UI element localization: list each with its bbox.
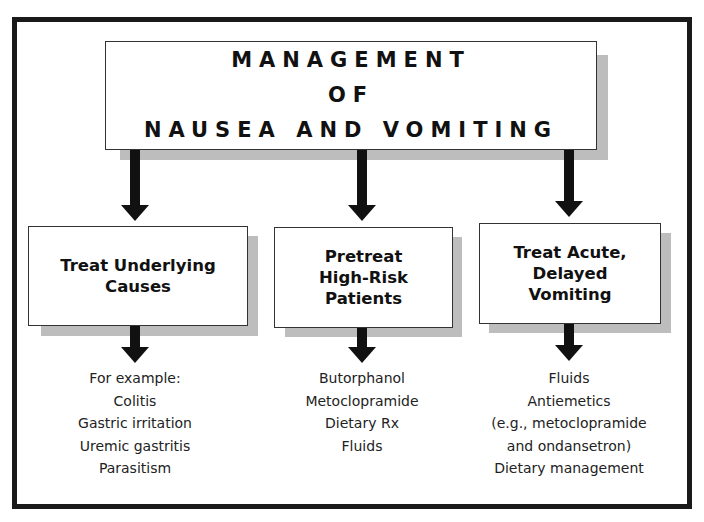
branch-box-treat-acute-delayed-vomiting: Treat Acute, Delayed Vomiting	[479, 223, 661, 324]
arrow-down-icon	[348, 347, 376, 363]
branch-2-heading-line-3: Patients	[325, 288, 402, 309]
title-line-3: NAUSEA AND VOMITING	[144, 113, 558, 148]
list-item: Fluids	[262, 435, 462, 458]
branch-3-heading-line-2: Delayed	[533, 263, 608, 284]
list-item: Butorphanol	[262, 367, 462, 390]
list-item: (e.g., metoclopramide	[464, 412, 674, 435]
branch-2-heading-line-1: Pretreat	[325, 246, 403, 267]
list-item: Gastric irritation	[35, 412, 235, 435]
connector-line-5	[357, 328, 367, 348]
list-item: Parasitism	[35, 457, 235, 480]
branch-box-pretreat-high-risk-patients: Pretreat High-Risk Patients	[274, 227, 453, 328]
branch-2-heading-line-2: High-Risk	[319, 267, 408, 288]
branch-3-heading-line-1: Treat Acute,	[513, 242, 626, 263]
arrow-down-icon	[121, 347, 149, 363]
list-item: Fluids	[464, 367, 674, 390]
connector-line-3	[564, 150, 574, 202]
list-item: For example:	[35, 367, 235, 390]
connector-line-6	[564, 324, 574, 346]
list-item: Antiemetics	[464, 390, 674, 413]
arrow-down-icon	[555, 201, 583, 217]
title-box: MANAGEMENT OF NAUSEA AND VOMITING	[105, 41, 597, 150]
branch-1-list: For example: Colitis Gastric irritation …	[35, 367, 235, 480]
branch-1-heading-line-2: Causes	[105, 276, 171, 297]
connector-line-4	[130, 326, 140, 348]
title-line-2: OF	[328, 78, 374, 113]
list-item: Uremic gastritis	[35, 435, 235, 458]
arrow-down-icon	[555, 345, 583, 361]
branch-3-heading-line-3: Vomiting	[528, 284, 611, 305]
connector-line-2	[357, 150, 367, 206]
connector-line-1	[130, 150, 140, 206]
list-item: Metoclopramide	[262, 390, 462, 413]
branch-2-list: Butorphanol Metoclopramide Dietary Rx Fl…	[262, 367, 462, 457]
list-item: Colitis	[35, 390, 235, 413]
arrow-down-icon	[121, 205, 149, 221]
branch-3-list: Fluids Antiemetics (e.g., metoclopramide…	[464, 367, 674, 480]
list-item: and ondansetron)	[464, 435, 674, 458]
title-line-1: MANAGEMENT	[231, 43, 471, 78]
arrow-down-icon	[348, 205, 376, 221]
branch-box-treat-underlying-causes: Treat Underlying Causes	[28, 226, 248, 326]
list-item: Dietary management	[464, 457, 674, 480]
branch-1-heading-line-1: Treat Underlying	[60, 255, 215, 276]
list-item: Dietary Rx	[262, 412, 462, 435]
